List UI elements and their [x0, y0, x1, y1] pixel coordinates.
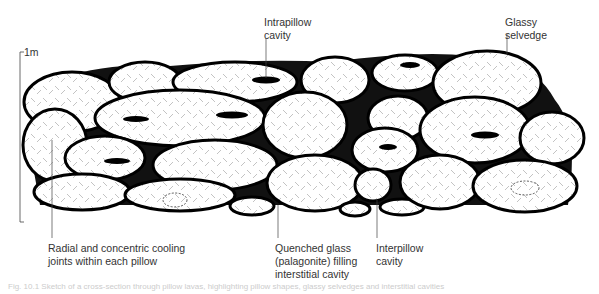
label-quenched-glass: Quenched glass (palagonite) filling inte… — [275, 242, 357, 281]
label-radial-joints: Radial and concentric cooling joints wit… — [48, 242, 185, 268]
label-intrapillow-cavity: Intrapillow cavity — [264, 16, 311, 42]
figure-caption: Fig. 10.1 Sketch of a cross-section thro… — [8, 282, 444, 291]
label-interpillow-cavity: Interpillow cavity — [376, 242, 423, 268]
scale-bar-label: 1m — [24, 46, 39, 59]
label-glassy-selvedge: Glassy selvedge — [505, 16, 547, 42]
